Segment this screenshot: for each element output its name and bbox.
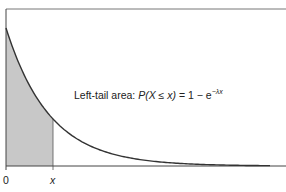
left-tail-annotation: Left-tail area: P(X ≤ x) = 1 − e−λx [74, 88, 223, 101]
x-tick-x: x [50, 174, 55, 186]
x-tick-zero: 0 [3, 174, 9, 186]
